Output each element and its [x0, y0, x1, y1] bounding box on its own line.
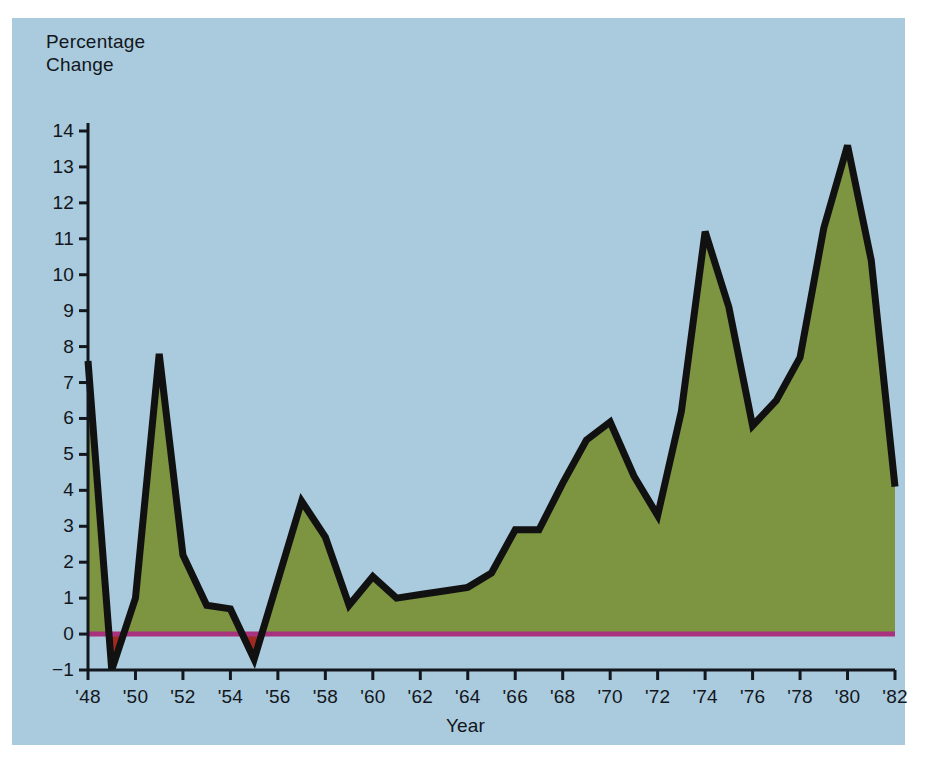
y-axis-tick-label: 3	[63, 515, 74, 537]
x-axis-tick-label: '82	[882, 686, 907, 708]
y-axis-tick-label: 5	[63, 443, 74, 465]
y-axis-tick-label: 12	[52, 192, 74, 214]
x-axis-tick-label: '80	[835, 686, 860, 708]
x-axis-tick-label: '58	[313, 686, 338, 708]
x-axis-tick-label: '76	[740, 686, 765, 708]
x-axis-tick-label: '72	[645, 686, 670, 708]
y-axis-tick-label: 4	[63, 479, 74, 501]
x-axis-tick-label: '48	[75, 686, 100, 708]
x-axis-tick-label: '66	[503, 686, 528, 708]
y-axis-tick-label: 0	[63, 623, 74, 645]
plot-group	[88, 145, 895, 670]
chart-figure: PercentageChange −101234567891011121314'…	[0, 0, 931, 762]
y-axis-tick-label: 2	[63, 551, 74, 573]
x-axis-tick-label: '62	[408, 686, 433, 708]
y-axis-tick-label: 11	[54, 228, 74, 250]
y-axis-tick-label: 8	[63, 336, 74, 358]
y-axis-tick-label: 10	[52, 264, 74, 286]
y-axis-tick-label: 14	[52, 120, 74, 142]
x-axis-title: Year	[0, 714, 931, 737]
y-axis-tick-label: −1	[52, 659, 74, 681]
y-axis-tick-label: 9	[63, 300, 74, 322]
x-axis-tick-label: '52	[170, 686, 195, 708]
y-axis-tick-label: 1	[63, 587, 74, 609]
x-axis-tick-label: '74	[692, 686, 717, 708]
x-axis-tick-label: '64	[455, 686, 480, 708]
x-axis-tick-label: '78	[787, 686, 812, 708]
y-axis-tick-label: 6	[63, 407, 74, 429]
chart-plot	[0, 0, 931, 762]
x-axis-tick-label: '54	[218, 686, 243, 708]
x-axis-tick-label: '68	[550, 686, 575, 708]
x-axis-tick-label: '56	[265, 686, 290, 708]
y-axis-tick-label: 7	[63, 372, 74, 394]
x-axis-tick-label: '60	[360, 686, 385, 708]
x-axis-tick-label: '50	[123, 686, 148, 708]
x-axis-tick-label: '70	[597, 686, 622, 708]
y-axis-tick-label: 13	[52, 156, 74, 178]
